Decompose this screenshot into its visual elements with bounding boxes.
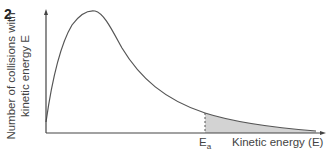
x-axis-label: Kinetic energy (E) xyxy=(232,136,323,148)
y-axis-arrow-icon xyxy=(44,9,48,15)
y-axis-label-line2: kinetic energy E xyxy=(18,1,32,151)
chart-plot xyxy=(0,0,329,157)
y-axis-label: Number of collisions with kinetic energy… xyxy=(4,1,32,151)
ea-label: Ea xyxy=(199,136,211,151)
distribution-curve xyxy=(46,11,316,131)
y-axis-label-line1: Number of collisions with xyxy=(4,1,18,151)
x-axis-arrow-icon xyxy=(320,131,326,135)
